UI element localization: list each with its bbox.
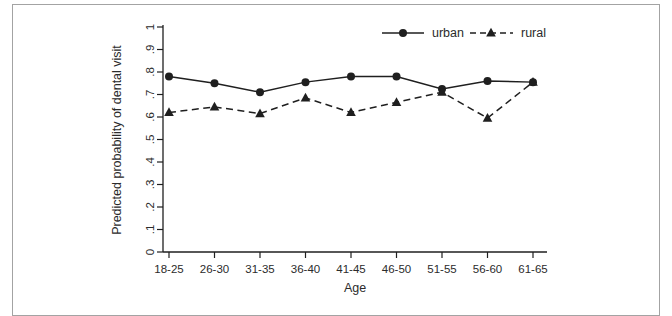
y-tick-label: .7 [144,90,156,100]
rural-data-point [210,102,220,111]
y-tick-label: .8 [144,67,156,77]
legend-urban-marker-icon [399,29,407,37]
x-tick-label: 31-35 [245,263,274,275]
y-tick-label: .6 [144,112,156,122]
y-tick-label: .3 [144,180,156,190]
legend-label-rural: rural [521,26,546,40]
x-tick-label: 61-65 [518,263,547,275]
x-tick-label: 46-50 [382,263,411,275]
x-axis-title: Age [344,281,366,295]
rural-data-point [301,93,311,102]
y-tick-label: .9 [144,45,156,55]
x-tick-label: 41-45 [336,263,365,275]
y-tick-label: .4 [144,157,156,167]
y-tick-label: 1 [144,24,156,30]
legend-label-urban: urban [432,26,464,40]
x-tick-label: 56-60 [473,263,502,275]
x-tick-label: 51-55 [427,263,456,275]
x-tick-label: 18-25 [154,263,183,275]
urban-data-point [165,73,173,81]
urban-data-point [347,73,355,81]
urban-data-point [393,73,401,81]
y-axis-title: Predicted probability of dental visit [110,45,124,235]
rural-data-point [392,97,402,106]
x-tick-label: 26-30 [200,263,229,275]
urban-data-point [484,77,492,85]
y-tick-label: 0 [144,249,156,255]
urban-data-point [256,88,264,96]
y-tick-label: .2 [144,202,156,212]
rural-data-point [483,113,493,122]
x-tick-label: 36-40 [291,263,320,275]
urban-data-point [302,78,310,86]
urban-data-point [211,79,219,87]
legend-rural-marker-icon [486,28,496,37]
y-tick-label: .1 [144,225,156,235]
y-tick-label: .5 [144,135,156,145]
